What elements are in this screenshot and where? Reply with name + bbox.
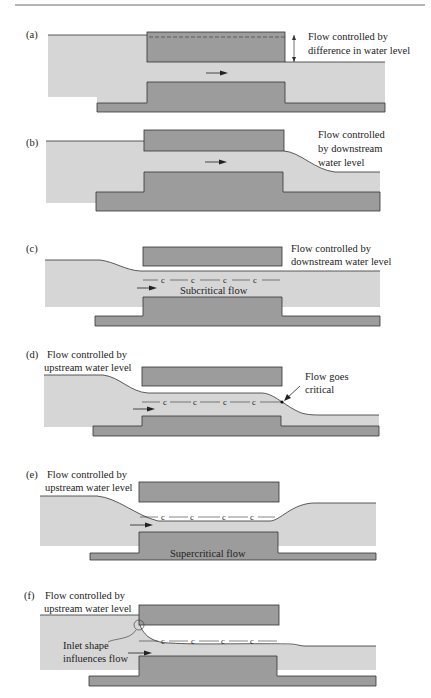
label-line-2: upstream water level [44,603,132,614]
panel-tag: (a) [26,29,38,41]
critical-mark: c [190,512,194,522]
label-line-1: Flow controlled by [47,469,128,480]
panel-a: (a) Flow controlled by difference in wat… [26,29,410,112]
panel-tag: (e) [26,469,38,481]
callout-line-1: Inlet shape [63,640,109,651]
label-line-1: Flow controlled by [308,31,389,42]
label-line-1: Flow controlled by [291,243,372,254]
critical-mark: c [191,636,195,646]
head-arrow-down-icon [292,57,296,62]
label-line-2: downstream water level [291,256,391,267]
critical-mark: c [163,397,167,407]
label-line-1: Flow controlled by [47,349,128,360]
panel-e: (e) Flow controlled by upstream water le… [26,469,376,560]
critical-mark: c [252,397,256,407]
critical-mark: c [191,275,195,285]
critical-mark: c [250,512,254,522]
critical-mark: c [223,275,227,285]
panel-tag: (f) [24,590,35,602]
culvert-roof [144,130,284,151]
culvert-roof [142,367,282,386]
panel-b: (b) Flow controlled by downstream water … [26,129,386,211]
culvert-flow-diagram: (a) Flow controlled by difference in wat… [0,0,431,698]
critical-mark: c [250,636,254,646]
callout-line-2: critical [305,384,334,395]
head-arrow-up-icon [292,35,296,40]
label-line-1: Flow controlled [318,129,386,140]
label-line-2: upstream water level [45,482,133,493]
label-line-2: upstream water level [44,362,132,373]
label-line-3: water level [318,157,364,168]
callout-arrow-icon [284,386,300,401]
jet-surface [140,625,376,646]
critical-mark: c [161,275,165,285]
label-line-1: Flow controlled by [45,590,126,601]
flow-regime-label: Supercritical flow [170,548,246,559]
critical-mark: c [222,512,226,522]
culvert-roof [139,482,279,502]
panel-tag: (b) [26,137,39,149]
critical-mark: c [223,397,227,407]
flow-regime-label: Subcritical flow [180,285,248,296]
panel-d: (d) Flow controlled by upstream water le… [26,349,379,436]
label-line-2: by downstream [318,143,382,154]
culvert-roof [139,605,279,625]
label-line-2: difference in water level [308,45,410,56]
callout-line-2: influences flow [63,653,128,664]
critical-mark: c [221,636,225,646]
callout-line-1: Flow goes [305,371,348,382]
critical-mark: c [253,275,257,285]
panel-tag: (c) [26,243,38,255]
critical-point [280,400,283,403]
culvert-roof [143,247,282,266]
critical-mark: c [193,397,197,407]
critical-mark: c [161,636,165,646]
culvert-roof [147,32,285,62]
critical-mark: c [161,512,165,522]
panel-f: (f) Flow controlled by upstream water le… [24,590,376,686]
panel-tag: (d) [26,349,39,361]
panel-c: (c) c c c c Subcritical flow Flow contro… [26,243,391,326]
